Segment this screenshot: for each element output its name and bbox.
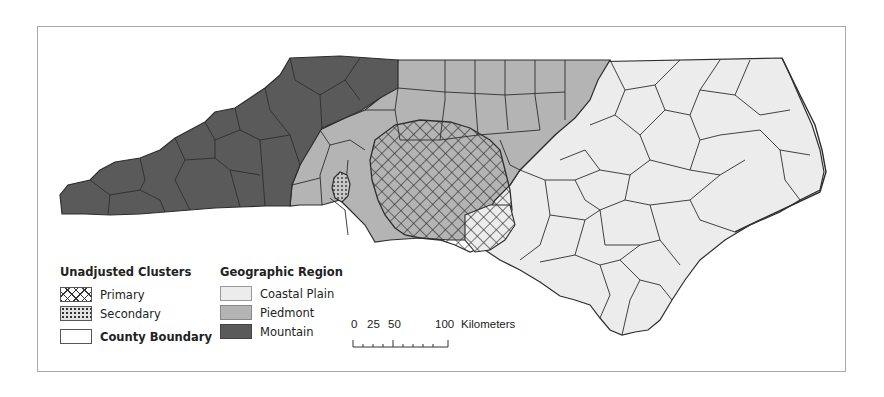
scale-tick-50: 50 [388,318,401,330]
legend-item-secondary: Secondary [60,306,161,321]
legend-item-piedmont: Piedmont [220,305,314,320]
dotted-swatch-icon [60,306,92,321]
scale-bar-graphic [353,340,448,347]
legend-label-piedmont: Piedmont [260,306,314,320]
legend-regions-title: Geographic Region [220,265,343,279]
scale-tick-0: 0 [351,318,357,330]
outline-swatch-icon [60,329,92,344]
legend-item-mountain: Mountain [220,324,314,339]
legend-item-primary: Primary [60,287,144,302]
legend-label-county-boundary: County Boundary [100,330,212,344]
scale-tick-25: 25 [367,318,380,330]
coastal-plain-swatch-icon [220,286,252,301]
legend-label-mountain: Mountain [260,325,314,339]
mountain-swatch-icon [220,324,252,339]
scale-tick-100: 100 [435,318,454,330]
legend-clusters-title: Unadjusted Clusters [60,265,191,279]
scale-unit: Kilometers [461,318,515,330]
crosshatch-swatch-icon [60,287,92,302]
legend-label-primary: Primary [100,288,144,302]
legend-item-county-boundary: County Boundary [60,329,212,344]
secondary-cluster-area [332,172,350,202]
legend-label-secondary: Secondary [100,307,161,321]
legend-item-coastal-plain: Coastal Plain [220,286,334,301]
legend-label-coastal-plain: Coastal Plain [260,287,334,301]
piedmont-swatch-icon [220,305,252,320]
